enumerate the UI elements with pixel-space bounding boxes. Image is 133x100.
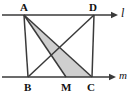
line-label-l: l — [121, 8, 124, 19]
segment-a-m — [24, 15, 66, 77]
vertex-label-b: B — [24, 82, 31, 93]
line-label-m: m — [119, 70, 127, 81]
segment-a-c — [24, 15, 92, 77]
vertex-label-d: D — [89, 2, 97, 13]
segment-d-c — [92, 15, 94, 77]
vertex-label-a: A — [20, 2, 28, 13]
geometry-figure: A D B M C l m — [0, 0, 133, 100]
line-l-arrowhead-icon — [111, 12, 118, 19]
segment-a-b — [24, 15, 28, 77]
vertex-label-c: C — [87, 82, 95, 93]
vertex-label-m: M — [61, 82, 71, 93]
line-m-arrowhead-icon — [109, 74, 116, 81]
